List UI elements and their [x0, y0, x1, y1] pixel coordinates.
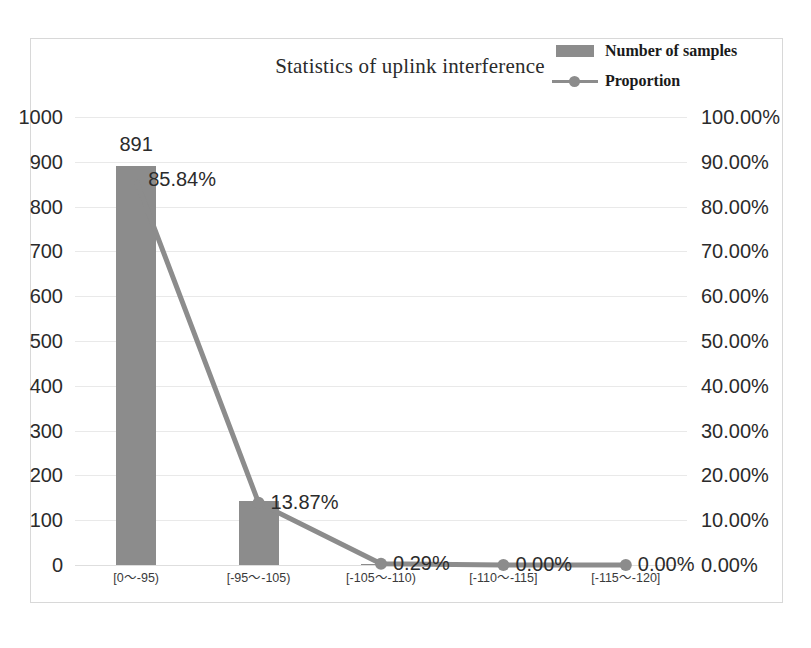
y-axis-right-tick-label: 50.00% [701, 331, 769, 351]
legend-item-number-of-samples[interactable]: Number of samples [545, 36, 795, 66]
line-point-label: 13.87% [271, 492, 339, 512]
chart-page: Statistics of uplink interference Number… [0, 0, 811, 648]
y-axis-left-tick-label: 200 [30, 465, 63, 485]
line-point-label: 0.29% [393, 553, 450, 573]
x-axis-tick-label: [-115～-120] [565, 572, 687, 585]
x-axis-tick-label: [-95～-105) [197, 572, 319, 585]
x-axis-tick-label: [-105～-110) [320, 572, 442, 585]
y-axis-left-tick-label: 400 [30, 376, 63, 396]
y-axis-left-tick-label: 300 [30, 421, 63, 441]
y-axis-left-tick-label: 900 [30, 152, 63, 172]
y-axis-right-tick-label: 40.00% [701, 376, 769, 396]
x-axis-tick-label: [-110～-115] [442, 572, 564, 585]
y-axis-right-tick-label: 100.00% [701, 107, 780, 127]
legend-label-number-of-samples: Number of samples [605, 42, 737, 60]
line-marker[interactable] [253, 497, 265, 509]
y-axis-right-tick-label: 90.00% [701, 152, 769, 172]
figure-caption [0, 634, 811, 648]
y-axis-right-tick-label: 70.00% [701, 241, 769, 261]
y-axis-left-tick-label: 100 [30, 510, 63, 530]
x-axis-tick-label: [0～-95) [75, 572, 197, 585]
y-axis-right-tick-label: 80.00% [701, 197, 769, 217]
line-marker[interactable] [620, 559, 632, 571]
y-axis-right-tick-label: 0.00% [701, 555, 758, 575]
y-axis-left-tick-label: 0 [52, 555, 63, 575]
legend-bar-swatch-icon [545, 45, 605, 57]
line-marker[interactable] [497, 559, 509, 571]
y-axis-left-tick-label: 1000 [19, 107, 64, 127]
proportion-line [136, 180, 626, 565]
y-axis-left-tick-label: 600 [30, 286, 63, 306]
legend-label-proportion: Proportion [605, 72, 680, 90]
line-point-label: 85.84% [148, 169, 216, 189]
chart-title: Statistics of uplink interference [240, 54, 580, 79]
y-axis-left-tick-label: 700 [30, 241, 63, 261]
y-axis-right-tick-label: 20.00% [701, 465, 769, 485]
line-marker[interactable] [375, 558, 387, 570]
legend-line-marker-swatch-icon [545, 75, 605, 87]
y-axis-left-tick-label: 500 [30, 331, 63, 351]
y-axis-right-tick-label: 10.00% [701, 510, 769, 530]
chart-legend: Number of samples Proportion [545, 36, 795, 96]
bar-value-label: 891 [106, 134, 166, 154]
y-axis-right-tick-label: 30.00% [701, 421, 769, 441]
legend-item-proportion[interactable]: Proportion [545, 66, 795, 96]
y-axis-right-tick-label: 60.00% [701, 286, 769, 306]
y-axis-left-tick-label: 800 [30, 197, 63, 217]
plot-area: 01002003004005006007008009001000 0.00%10… [75, 117, 687, 565]
